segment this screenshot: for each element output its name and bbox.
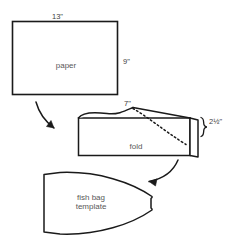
dimension-label-top-7: 7" [124, 100, 131, 109]
paper-rectangle [13, 22, 118, 95]
curved-arrow-down-right-icon [36, 102, 54, 128]
paper-shape-label: paper [46, 61, 86, 70]
dimension-label-width-13: 13" [52, 13, 63, 22]
fold-shape-label: fold [116, 142, 156, 151]
dimension-label-height-9: 9" [123, 58, 130, 67]
diagram-canvas: 13" 9" 7" 2½" paper fold fish bag templa… [0, 0, 235, 252]
fish-bag-template-label-line1: fish bag [77, 193, 105, 202]
dimension-label-right-two-and-half: 2½" [209, 118, 222, 127]
fish-bag-template-label-line2: template [76, 202, 107, 211]
fish-bag-template-label: fish bag template [56, 193, 126, 211]
curved-arrow-down-left-icon [149, 160, 178, 186]
diagram-illustration [0, 0, 235, 252]
curly-brace-icon [201, 118, 206, 137]
